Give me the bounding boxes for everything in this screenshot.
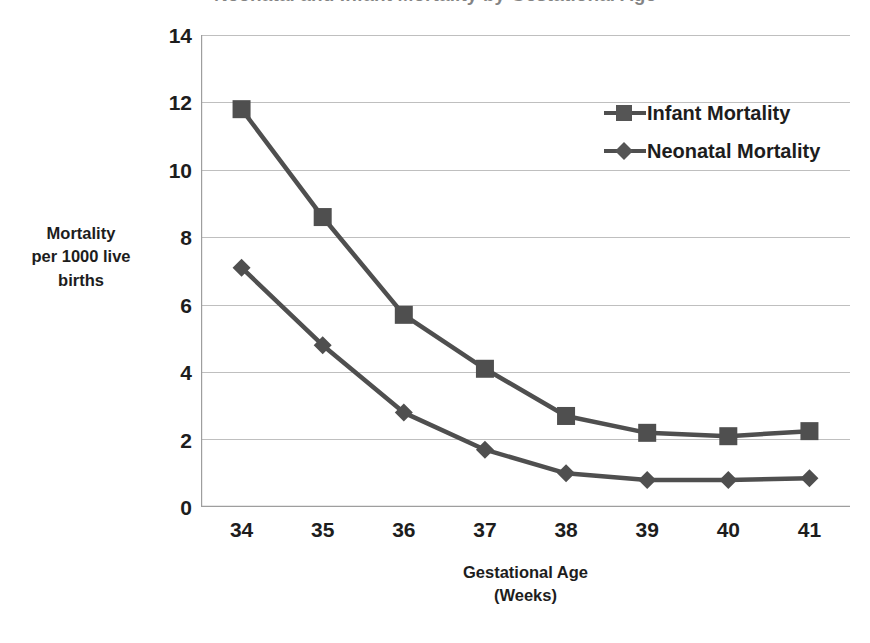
y-axis-title-line-3: births <box>6 269 156 292</box>
data-point <box>395 306 413 324</box>
data-point <box>476 441 494 459</box>
y-axis-title-line-1: Mortality <box>6 222 156 245</box>
data-point <box>314 208 332 226</box>
x-tick-label-39: 39 <box>612 519 682 540</box>
y-tick-label-8: 8 <box>148 227 192 248</box>
y-axis-title: Mortality per 1000 live births <box>6 222 156 292</box>
x-tick-label-36: 36 <box>369 519 439 540</box>
y-axis-tick-labels: 14 12 10 8 6 4 2 0 <box>140 0 192 643</box>
data-point <box>557 464 575 482</box>
y-tick-label-2: 2 <box>148 430 192 451</box>
y-tick-label-14: 14 <box>148 25 192 46</box>
x-tick-label-34: 34 <box>207 519 277 540</box>
legend-label-neonatal-mortality: Neonatal Mortality <box>647 140 820 163</box>
data-point <box>719 427 737 445</box>
data-point <box>800 422 818 440</box>
legend-label-infant-mortality: Infant Mortality <box>647 102 790 125</box>
x-tick-label-35: 35 <box>288 519 358 540</box>
data-point <box>719 471 737 489</box>
data-point <box>233 100 251 118</box>
y-tick-label-0: 0 <box>148 497 192 518</box>
data-point <box>638 471 656 489</box>
y-tick-label-4: 4 <box>148 362 192 383</box>
x-tick-label-37: 37 <box>450 519 520 540</box>
x-axis-title: Gestational Age (Weeks) <box>201 561 850 607</box>
x-tick-label-38: 38 <box>531 519 601 540</box>
legend-marker-square-icon <box>604 103 646 123</box>
x-axis-title-line-2: (Weeks) <box>201 584 850 607</box>
y-tick-label-6: 6 <box>148 295 192 316</box>
y-tick-label-10: 10 <box>148 160 192 181</box>
data-point <box>476 360 494 378</box>
legend-item-infant-mortality[interactable]: Infant Mortality <box>604 94 850 132</box>
series-neonatal-mortality <box>233 259 819 489</box>
x-axis-tick-labels: 3435363738394041 <box>201 519 850 551</box>
x-axis-title-line-1: Gestational Age <box>201 561 850 584</box>
chart-container: Neonatal and Infant Mortality by Gestati… <box>0 0 870 643</box>
x-tick-label-40: 40 <box>693 519 763 540</box>
x-tick-label-41: 41 <box>774 519 844 540</box>
chart-legend: Infant Mortality Neonatal Mortality <box>604 94 850 170</box>
y-tick-label-12: 12 <box>148 92 192 113</box>
data-point <box>638 424 656 442</box>
data-point <box>557 407 575 425</box>
y-axis-title-line-2: per 1000 live <box>6 245 156 268</box>
chart-title: Neonatal and Infant Mortality by Gestati… <box>0 0 870 6</box>
legend-item-neonatal-mortality[interactable]: Neonatal Mortality <box>604 132 850 170</box>
data-point <box>800 469 818 487</box>
legend-marker-diamond-icon <box>604 141 646 161</box>
